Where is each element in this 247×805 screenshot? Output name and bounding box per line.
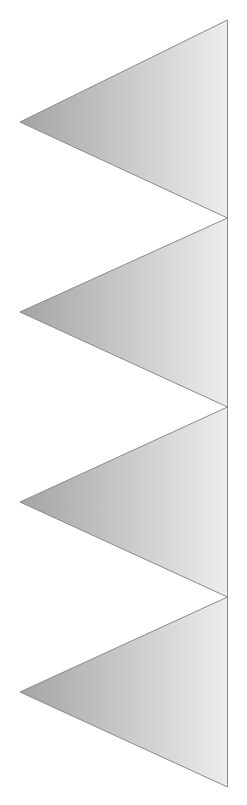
triangle-stack-svg xyxy=(0,0,247,805)
graphic-canvas xyxy=(0,0,247,805)
